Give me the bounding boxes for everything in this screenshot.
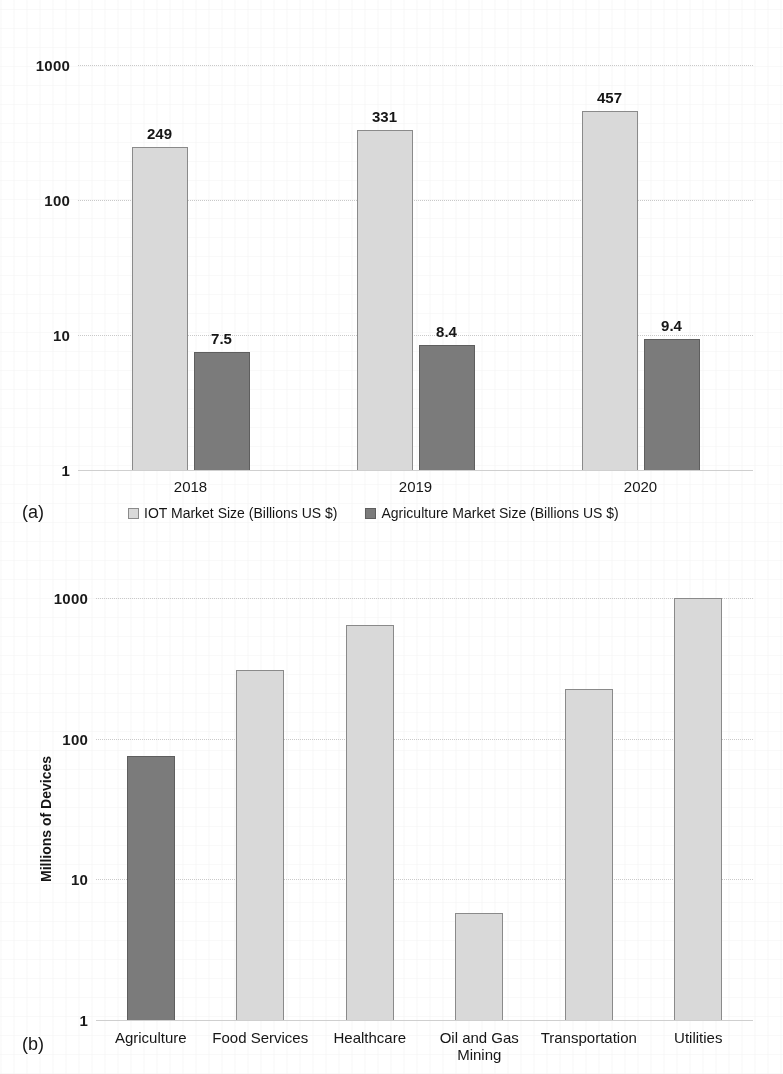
panel-caption-b: (b) bbox=[22, 1034, 44, 1055]
bar bbox=[127, 756, 175, 1020]
bar bbox=[346, 625, 394, 1020]
bar bbox=[455, 913, 503, 1020]
bar bbox=[194, 352, 250, 470]
chart-panel-a: 1101001000 2497.53318.44579.4 2018201920… bbox=[0, 0, 783, 552]
bar bbox=[674, 598, 722, 1020]
bar bbox=[357, 130, 413, 470]
gridline bbox=[96, 598, 753, 599]
bar bbox=[132, 147, 188, 470]
gridline bbox=[96, 739, 753, 740]
panel-caption-a: (a) bbox=[22, 502, 44, 523]
plot-area-a: 2497.53318.44579.4 bbox=[78, 65, 753, 470]
gridline bbox=[96, 879, 753, 880]
x-axis-tick-label: Transportation bbox=[541, 1029, 637, 1046]
bar-value-label: 7.5 bbox=[211, 330, 232, 347]
y-axis-tick-label: 100 bbox=[62, 730, 88, 747]
x-axis-tick-label: Agriculture bbox=[115, 1029, 187, 1046]
legend-label: Agriculture Market Size (Billions US $) bbox=[381, 505, 618, 521]
gridline bbox=[78, 65, 753, 66]
bar bbox=[644, 339, 700, 470]
gridline bbox=[78, 470, 753, 471]
legend-item: Agriculture Market Size (Billions US $) bbox=[365, 505, 618, 521]
bar-value-label: 8.4 bbox=[436, 323, 457, 340]
chart-panel-b: Millions of Devices 1101001000 Agricultu… bbox=[0, 552, 783, 1074]
x-axis-tick-label: 2018 bbox=[174, 478, 207, 495]
legend-item: IOT Market Size (Billions US $) bbox=[128, 505, 337, 521]
bar bbox=[565, 689, 613, 1020]
y-axis-title-b: Millions of Devices bbox=[38, 756, 54, 882]
x-axis-tick-label: Utilities bbox=[674, 1029, 722, 1046]
legend-swatch bbox=[128, 508, 139, 519]
legend-swatch bbox=[365, 508, 376, 519]
y-axis-tick-label: 1 bbox=[79, 1012, 88, 1029]
y-axis-tick-label: 10 bbox=[53, 327, 70, 344]
y-axis-tick-label: 1000 bbox=[54, 590, 88, 607]
bar-value-label: 249 bbox=[147, 125, 172, 142]
bar bbox=[582, 111, 638, 470]
bar bbox=[236, 670, 284, 1020]
x-axis-tick-label: Food Services bbox=[212, 1029, 308, 1046]
x-axis-tick-label: 2019 bbox=[399, 478, 432, 495]
bar-value-label: 457 bbox=[597, 89, 622, 106]
y-axis-tick-label: 10 bbox=[71, 871, 88, 888]
bar bbox=[419, 345, 475, 470]
chart-legend-a: IOT Market Size (Billions US $)Agricultu… bbox=[128, 505, 619, 521]
x-axis-tick-label: Oil and Gas Mining bbox=[440, 1029, 519, 1064]
y-axis-tick-label: 1 bbox=[61, 462, 70, 479]
plot-area-b bbox=[96, 598, 753, 1020]
x-axis-tick-label: Healthcare bbox=[333, 1029, 406, 1046]
legend-label: IOT Market Size (Billions US $) bbox=[144, 505, 337, 521]
x-axis-tick-label: 2020 bbox=[624, 478, 657, 495]
bar-value-label: 331 bbox=[372, 108, 397, 125]
y-axis-tick-label: 100 bbox=[44, 192, 70, 209]
gridline bbox=[96, 1020, 753, 1021]
y-axis-tick-label: 1000 bbox=[36, 57, 70, 74]
bar-value-label: 9.4 bbox=[661, 317, 682, 334]
